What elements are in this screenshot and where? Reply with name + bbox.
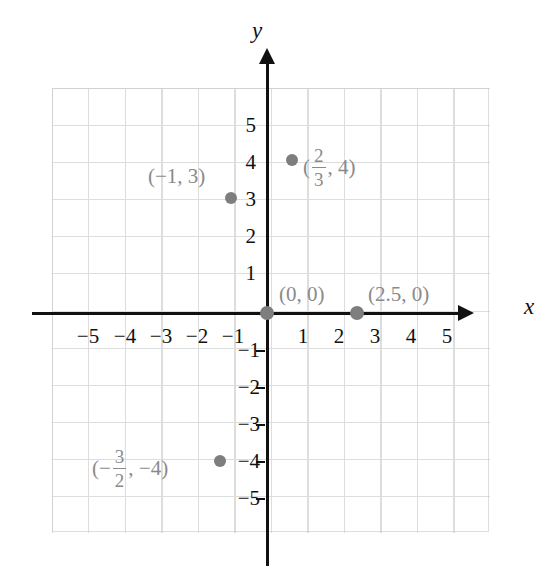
fraction-two-thirds: 2 3	[312, 146, 326, 189]
y-tick-label: −1	[224, 338, 260, 363]
y-tick-label: −3	[224, 412, 260, 437]
y-tick-label: 2	[224, 224, 256, 249]
label-tail: , −4)	[128, 456, 168, 481]
data-point-neg-three-halves-neg4	[214, 455, 226, 467]
data-point-2-5-0	[350, 306, 364, 320]
x-tick-label: 3	[370, 324, 381, 349]
x-axis-line	[32, 312, 462, 315]
x-axis-label: x	[524, 294, 534, 320]
label-tail: , 4)	[328, 155, 356, 180]
x-tick-label: 5	[442, 324, 453, 349]
y-axis-label: y	[252, 18, 262, 44]
fraction-numerator: 3	[113, 447, 127, 466]
y-tick-label: −2	[224, 375, 260, 400]
coordinate-plane-figure: x y −5 −4 −3 −2 −1 1 2 3 4 5 5 4 3 2 1 −…	[0, 0, 560, 574]
fraction-bar	[312, 167, 326, 168]
fraction-denominator: 3	[312, 170, 326, 189]
paren-open: (	[303, 155, 310, 180]
point-label-origin: (0, 0)	[279, 282, 325, 307]
y-axis-arrow-icon	[259, 48, 275, 64]
x-tick-label: 2	[334, 324, 345, 349]
data-point-two-thirds-4	[286, 154, 298, 166]
fraction-denominator: 2	[113, 471, 127, 490]
x-tick-label: 1	[298, 324, 309, 349]
fraction-bar	[113, 468, 127, 469]
x-tick-label: −2	[186, 324, 208, 349]
y-tick-label: −5	[224, 486, 260, 511]
data-point-origin	[260, 306, 274, 320]
fraction-three-halves: 3 2	[113, 447, 127, 490]
y-tick-label: 1	[224, 261, 256, 286]
x-tick-label: −4	[114, 324, 136, 349]
point-label-neg1-3: (−1, 3)	[148, 164, 205, 189]
paren-open-minus: (−	[92, 456, 111, 481]
point-label-neg-three-halves-neg4: (− 3 2 , −4)	[92, 447, 168, 490]
y-tick-label: 4	[224, 150, 256, 175]
x-tick-label: −3	[150, 324, 172, 349]
x-tick-label: −5	[77, 324, 99, 349]
x-axis-arrow-icon	[458, 305, 474, 321]
y-tick-label: −4	[224, 449, 260, 474]
point-label-two-thirds-4: ( 2 3 , 4)	[303, 146, 356, 189]
fraction-numerator: 2	[312, 146, 326, 165]
y-tick-label: 5	[224, 113, 256, 138]
data-point-neg1-3	[225, 192, 237, 204]
x-tick-label: 4	[406, 324, 417, 349]
point-label-2-5-0: (2.5, 0)	[368, 282, 429, 307]
